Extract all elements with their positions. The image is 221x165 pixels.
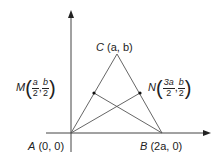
label-b-name: B [140, 140, 147, 152]
label-c-name: C [96, 41, 104, 53]
label-n-name: N [148, 81, 156, 93]
point-n [138, 91, 141, 94]
segment-bm [94, 93, 162, 133]
label-n: N(3a2,b2) [148, 78, 191, 98]
label-a: A (0, 0) [28, 141, 64, 152]
label-c: C (a, b) [96, 42, 133, 53]
triangle-diagram: C (a, b) M(a2,b2) N(3a2,b2) A (0, 0) B (… [0, 0, 221, 165]
x-axis-arrow-icon [203, 130, 211, 136]
label-b: B (2a, 0) [140, 141, 182, 152]
label-m-name: M [16, 81, 25, 93]
label-m-x-num: a [32, 78, 39, 88]
label-m-x-den: 2 [33, 89, 38, 98]
point-m [92, 91, 95, 94]
label-c-coords: (a, b) [107, 41, 133, 53]
y-axis-arrow-icon [68, 10, 74, 18]
label-m: M(a2,b2) [16, 78, 56, 98]
label-b-coords: (2a, 0) [150, 140, 182, 152]
label-a-name: A [28, 140, 35, 152]
label-a-coords: (0, 0) [38, 140, 64, 152]
label-m-y-num: b [42, 78, 49, 88]
label-n-y-num: b [178, 78, 185, 88]
label-n-y-den: 2 [179, 89, 184, 98]
segment-an [71, 93, 140, 133]
label-n-x-num: 3a [163, 78, 175, 88]
label-m-y-den: 2 [43, 89, 48, 98]
label-n-x-den: 2 [166, 89, 171, 98]
